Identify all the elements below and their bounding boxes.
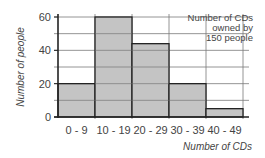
y-tick-label: 40 [39, 44, 51, 56]
x-axis-title: Number of CDs [183, 141, 252, 152]
bar-20-29 [132, 44, 169, 117]
y-tick-label: 60 [39, 11, 51, 23]
x-tick-label: 10 - 19 [96, 124, 130, 136]
x-tick-label: 20 - 29 [133, 124, 167, 136]
y-axis-title: Number of people [15, 27, 26, 107]
annotation-line: 150 people [206, 32, 253, 43]
y-tick-label: 20 [39, 78, 51, 90]
histogram-chart: 0204060 0 - 910 - 1920 - 2930 - 3940 - 4… [0, 0, 265, 158]
x-tick-labels: 0 - 910 - 1920 - 2930 - 3940 - 49 [65, 124, 241, 136]
chart-annotation: Number of CDsowned by150 people [188, 12, 254, 43]
x-tick-label: 0 - 9 [65, 124, 87, 136]
y-tick-label: 0 [45, 111, 51, 123]
bar-40-49 [206, 109, 243, 117]
x-tick-label: 40 - 49 [207, 124, 241, 136]
x-tick-label: 30 - 39 [170, 124, 204, 136]
